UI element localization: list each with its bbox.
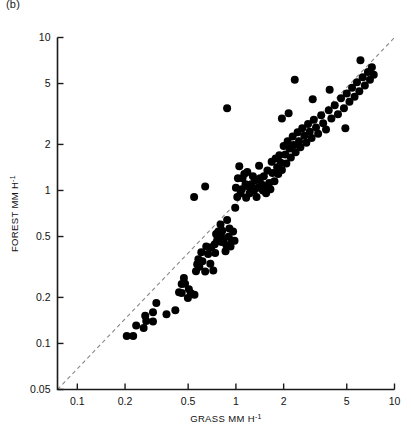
svg-text:0.2: 0.2 [118,395,133,407]
data-points [123,56,378,340]
svg-text:0.1: 0.1 [36,337,51,349]
svg-text:5: 5 [344,395,350,407]
scatter-plot: 0.10.20.512510 0.050.10.20.512510 GRASS … [0,0,411,435]
reference-line [58,38,395,390]
svg-text:FOREST MM H-1: FOREST MM H-1 [9,175,21,252]
svg-text:0.1: 0.1 [70,395,85,407]
svg-text:GRASS MM H-1: GRASS MM H-1 [190,413,262,425]
svg-text:1: 1 [233,395,239,407]
y-tick-labels: 0.050.10.20.512510 [30,31,51,395]
svg-text:2: 2 [45,138,51,150]
svg-text:1: 1 [45,184,51,196]
svg-text:0.5: 0.5 [181,395,196,407]
svg-text:0.05: 0.05 [30,383,51,395]
svg-text:10: 10 [389,395,401,407]
svg-text:10: 10 [39,31,51,43]
svg-text:2: 2 [281,395,287,407]
svg-text:0.2: 0.2 [36,291,51,303]
svg-text:5: 5 [45,77,51,89]
x-tick-labels: 0.10.20.512510 [70,395,400,407]
figure-panel: (b) 0.10.20.512510 0.050.10.20.512510 GR… [0,0,411,435]
svg-text:0.5: 0.5 [36,230,51,242]
